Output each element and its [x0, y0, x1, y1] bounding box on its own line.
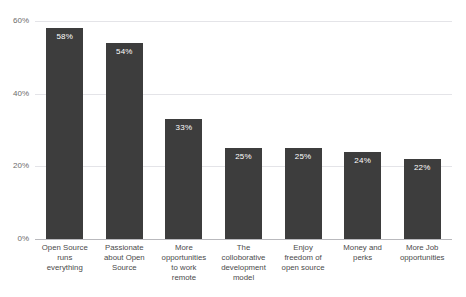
x-axis-category-line: Money and [334, 243, 392, 253]
bar-group[interactable]: 58% [46, 28, 83, 239]
x-axis-labels: Open SourcerunseverythingPassionateabout… [35, 243, 452, 297]
chart-title [0, 0, 466, 2]
bar[interactable] [285, 148, 322, 239]
bars-layer: 58%54%33%25%25%24%22% [35, 21, 452, 239]
y-axis-tick-label: 40% [0, 90, 29, 98]
bar[interactable] [225, 148, 262, 239]
x-axis-category-label: Open Sourcerunseverything [36, 243, 94, 273]
bar-group[interactable]: 54% [106, 43, 143, 239]
x-axis-category-line: colloborative [215, 253, 273, 263]
x-axis-category-line: open source [274, 263, 332, 273]
gridline-0% [35, 239, 452, 240]
x-axis-category-label: More Jobopportunities [393, 243, 451, 263]
x-axis-category-line: freedom of [274, 253, 332, 263]
bar-value-label: 54% [106, 47, 143, 56]
x-axis-category-label: Passionateabout OpenSource [95, 243, 153, 273]
x-axis-category-line: Source [95, 263, 153, 273]
bar-value-label: 25% [225, 152, 262, 161]
x-axis-category-label: Moreopportunitiesto workremote [155, 243, 213, 283]
bar-value-label: 25% [285, 152, 322, 161]
bar-group[interactable]: 25% [225, 148, 262, 239]
bar-value-label: 58% [46, 32, 83, 41]
x-axis-category-line: Passionate [95, 243, 153, 253]
bar-group[interactable]: 33% [165, 119, 202, 239]
x-axis-category-line: More Job [393, 243, 451, 253]
x-axis-category-line: The [215, 243, 273, 253]
bar-group[interactable]: 25% [285, 148, 322, 239]
bar-group[interactable]: 24% [344, 152, 381, 239]
x-axis-category-line: Enjoy [274, 243, 332, 253]
x-axis-category-line: model [215, 273, 273, 283]
bar-chart: 58%54%33%25%25%24%22% Open Sourcerunseve… [0, 0, 466, 297]
y-axis-tick-label: 0% [0, 235, 29, 243]
x-axis-category-line: perks [334, 253, 392, 263]
bar[interactable] [106, 43, 143, 239]
x-axis-category-line: opportunities [393, 253, 451, 263]
x-axis-category-line: opportunities [155, 253, 213, 263]
y-axis-tick-label: 20% [0, 162, 29, 170]
bar-group[interactable]: 22% [404, 159, 441, 239]
bar[interactable] [165, 119, 202, 239]
x-axis-category-line: to work [155, 263, 213, 273]
x-axis-category-line: about Open [95, 253, 153, 263]
x-axis-category-label: Enjoyfreedom ofopen source [274, 243, 332, 273]
x-axis-category-line: Open Source [36, 243, 94, 253]
x-axis-category-line: development [215, 263, 273, 273]
x-axis-category-line: everything [36, 263, 94, 273]
bar-value-label: 22% [404, 163, 441, 172]
x-axis-category-label: Money andperks [334, 243, 392, 263]
x-axis-category-line: runs [36, 253, 94, 263]
y-axis-tick-label: 60% [0, 17, 29, 25]
x-axis-category-label: Thecolloborativedevelopmentmodel [215, 243, 273, 283]
bar-value-label: 33% [165, 123, 202, 132]
x-axis-category-line: remote [155, 273, 213, 283]
bar[interactable] [344, 152, 381, 239]
x-axis-category-line: More [155, 243, 213, 253]
bar-value-label: 24% [344, 156, 381, 165]
bar[interactable] [46, 28, 83, 239]
